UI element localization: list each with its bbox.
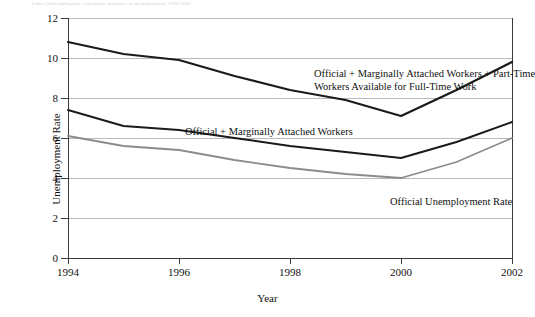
y-axis-title: Unemployment Rate [50, 113, 62, 204]
annotation-broadest-line1: Official + Marginally Attached Workers +… [314, 68, 535, 81]
y-tick-label-0: 0 [53, 252, 59, 264]
annotation-broadest-measure: Official + Marginally Attached Workers +… [314, 68, 535, 93]
x-tick-1994 [68, 258, 69, 264]
x-tick-label-1998: 1998 [279, 266, 301, 278]
annotation-broadest-line2: Workers Available for Full-Time Work [314, 81, 535, 94]
series-line-2 [68, 136, 512, 178]
x-tick-label-1996: 1996 [168, 266, 190, 278]
y-tick-label-6: 6 [53, 132, 59, 144]
plot-area: 024681012 19941996199820002002 Official … [68, 18, 512, 258]
x-tick-2000 [401, 258, 402, 264]
x-tick-2002 [512, 258, 513, 264]
x-axis-title: Year [0, 292, 535, 304]
annotation-marginally-attached: Official + Marginally Attached Workers [185, 126, 353, 139]
x-tick-1996 [179, 258, 180, 264]
y-tick-label-8: 8 [53, 92, 59, 104]
x-tick-label-1994: 1994 [57, 266, 79, 278]
y-tick-label-10: 10 [47, 52, 58, 64]
figure-top-caption: Labor Underutilization: Alternative meas… [32, 0, 502, 7]
y-tick-label-4: 4 [53, 172, 59, 184]
y-tick-label-12: 12 [47, 12, 58, 24]
annotation-official-rate: Official Unemployment Rate [390, 196, 512, 209]
x-tick-label-2000: 2000 [390, 266, 412, 278]
y-tick-label-2: 2 [53, 212, 59, 224]
unemployment-rate-line-chart: Labor Underutilization: Alternative meas… [0, 0, 535, 317]
x-tick-1998 [290, 258, 291, 264]
x-tick-label-2002: 2002 [501, 266, 523, 278]
